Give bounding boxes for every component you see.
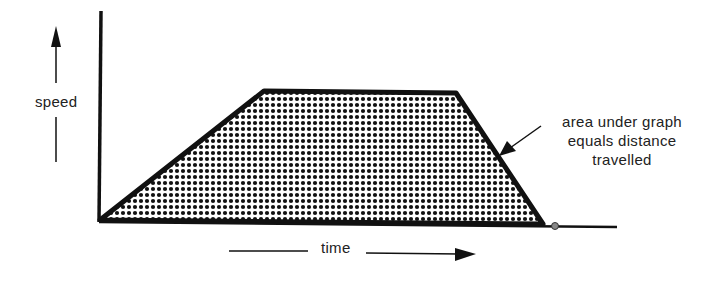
annotation: area under graph equals distance travell… [552, 112, 692, 169]
annotation-line-1: area under graph [552, 112, 692, 131]
annotation-line-2: equals distance [552, 131, 692, 150]
time-arrow-icon [229, 248, 476, 261]
annotation-line-3: travelled [552, 150, 692, 169]
callout-arrow-icon [499, 126, 541, 156]
x-axis-label: time [321, 238, 351, 257]
end-marker-icon [552, 223, 559, 230]
area-under-graph [100, 91, 543, 224]
y-axis [99, 11, 101, 222]
y-axis-label: speed [35, 92, 77, 111]
